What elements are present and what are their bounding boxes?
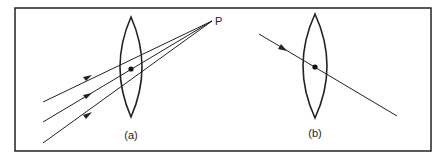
arrow-icon [278, 44, 287, 51]
ray-a-3 [43, 21, 212, 143]
arrow-icon [83, 93, 92, 99]
panel-a: P (a) [43, 15, 222, 143]
panel-b: (b) [259, 14, 397, 139]
panel-a-label: (a) [124, 129, 137, 141]
diagram-frame [15, 8, 431, 151]
optical-center-dot-b [312, 64, 317, 69]
focal-point-label: P [215, 15, 222, 27]
ray-a-1 [43, 21, 212, 102]
lens-diagram: P (a) (b) [0, 0, 446, 160]
arrow-icon [83, 75, 92, 81]
panel-b-label: (b) [308, 127, 321, 139]
optical-center-dot-a [128, 66, 133, 71]
